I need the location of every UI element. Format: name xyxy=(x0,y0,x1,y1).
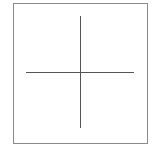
crosshair-vertical-line xyxy=(80,16,81,128)
